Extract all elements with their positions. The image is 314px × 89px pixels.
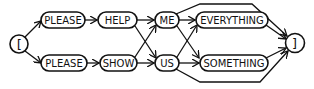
start-terminal: [ xyxy=(10,35,28,53)
node-label: SOMETHING xyxy=(204,58,265,69)
node-me: ME xyxy=(155,12,179,28)
edge-start-to-please-top xyxy=(25,21,41,37)
end-label: ] xyxy=(291,36,299,51)
end-terminal: ] xyxy=(286,34,305,53)
node-help: HELP xyxy=(98,12,137,28)
node-label: PLEASE xyxy=(44,15,81,26)
node-everything: EVERYTHING xyxy=(196,12,268,28)
node-show: SHOW xyxy=(100,55,137,71)
start-label: [ xyxy=(15,37,23,52)
node-label: HELP xyxy=(105,15,130,26)
node-label: SHOW xyxy=(103,58,135,69)
node-label: EVERYTHING xyxy=(200,15,264,26)
edge-start-to-please-bottom xyxy=(25,51,41,63)
node-label: ME xyxy=(160,15,175,26)
node-label: PLEASE xyxy=(45,58,82,69)
node-something: SOMETHING xyxy=(200,55,268,71)
node-us: US xyxy=(155,55,179,71)
syntax-diagram: [ PLEASE HELP PLEASE SHOW ME US EVERYTHI… xyxy=(0,0,314,89)
node-please-top: PLEASE xyxy=(41,12,85,28)
node-please-bottom: PLEASE xyxy=(41,55,87,71)
node-label: US xyxy=(160,58,174,69)
edge-me-to-something xyxy=(177,26,199,58)
